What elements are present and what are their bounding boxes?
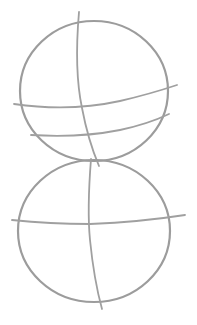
sketch-drawing	[0, 0, 197, 325]
bottom-circle-group	[12, 159, 185, 309]
top-horizontal-guide-2	[31, 114, 169, 136]
sketch-canvas	[0, 0, 197, 325]
bottom-circle	[18, 160, 170, 302]
top-vertical-guide	[77, 12, 99, 166]
top-circle-group	[14, 12, 177, 166]
bottom-horizontal-guide	[12, 215, 185, 224]
bottom-vertical-guide	[89, 159, 102, 309]
top-horizontal-guide-1	[14, 85, 177, 107]
top-circle	[20, 21, 168, 161]
